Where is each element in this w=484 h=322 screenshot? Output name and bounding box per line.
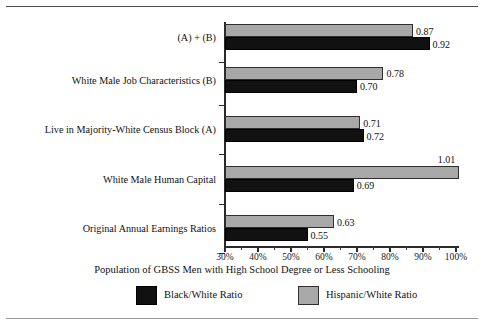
- category-label: White Male Human Capital: [103, 173, 216, 184]
- bar-black: [225, 129, 364, 142]
- category-label: (A) + (B): [177, 32, 216, 43]
- legend-swatch-hisp: [298, 286, 319, 305]
- x-axis-tick-minor: [307, 246, 308, 250]
- bar-hisp: [225, 67, 383, 80]
- bar-hisp: [225, 24, 413, 37]
- x-tick-label: 80%: [381, 252, 399, 262]
- x-tick-label: 100%: [445, 252, 468, 262]
- x-tick-label: 70%: [348, 252, 366, 262]
- x-axis-caption: Population of GBSS Men with High School …: [0, 264, 484, 275]
- bar-value-label: 0.72: [367, 130, 385, 141]
- category-label: Live in Majority-White Census Block (A): [45, 124, 216, 135]
- bar-hisp: [225, 116, 360, 129]
- x-axis-tick-minor: [406, 246, 407, 250]
- y-axis-tick: [219, 105, 225, 106]
- x-axis-line: [224, 246, 459, 248]
- y-axis-tick: [219, 204, 225, 205]
- x-axis-tick-minor: [373, 246, 374, 250]
- bar-value-label: 0.78: [386, 68, 404, 79]
- y-axis-tick: [219, 253, 225, 254]
- x-axis-tick-minor: [274, 246, 275, 250]
- x-tick-label: 90%: [414, 252, 432, 262]
- category-label: White Male Job Characteristics (B): [72, 74, 216, 85]
- x-axis-tick-minor: [340, 246, 341, 250]
- bar-value-label: 0.70: [360, 81, 378, 92]
- category-label: Original Annual Earnings Ratios: [83, 223, 216, 234]
- bar-value-label: 0.55: [311, 229, 329, 240]
- bar-value-label: 0.63: [337, 216, 355, 227]
- bar-black: [225, 228, 308, 241]
- bar-value-label: 0.71: [363, 117, 381, 128]
- x-tick-label: 40%: [249, 252, 267, 262]
- x-tick-label: 60%: [315, 252, 333, 262]
- bar-value-label: 0.87: [416, 25, 434, 36]
- bar-hisp: [225, 215, 334, 228]
- chart-legend: Black/White RatioHispanic/White Ratio: [0, 286, 484, 308]
- bar-value-label: 0.92: [433, 38, 451, 49]
- bar-value-label: 1.01: [438, 153, 456, 164]
- legend-label: Hispanic/White Ratio: [326, 289, 417, 300]
- legend-label: Black/White Ratio: [164, 289, 242, 300]
- x-tick-label: 50%: [282, 252, 300, 262]
- bar-black: [225, 37, 430, 50]
- x-axis-tick-minor: [439, 246, 440, 250]
- bar-hisp: [225, 166, 459, 179]
- legend-swatch-black: [136, 286, 157, 305]
- y-axis-tick: [219, 62, 225, 63]
- bar-black: [225, 80, 357, 93]
- y-axis-tick: [219, 154, 225, 155]
- bar-black: [225, 179, 354, 192]
- chart-figure: 30%40%50%60%70%80%90%100%Original Annual…: [0, 0, 484, 322]
- bar-value-label: 0.69: [357, 180, 375, 191]
- x-axis-tick-minor: [241, 246, 242, 250]
